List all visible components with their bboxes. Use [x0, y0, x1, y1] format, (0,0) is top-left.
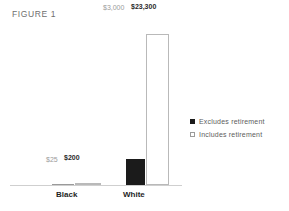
value-label-white-includes: $23,300 — [131, 3, 156, 10]
legend-item-includes-retirement: Includes retirement — [190, 131, 285, 138]
plot-area — [10, 16, 182, 186]
x-axis-line — [10, 185, 182, 186]
legend: Excludes retirement Includes retirement — [190, 118, 285, 144]
bar-black-excludes-retirement — [52, 184, 74, 185]
value-label-white-excludes: $3,000 — [103, 4, 124, 11]
bar-group-white — [118, 17, 170, 185]
category-label-black: Black — [56, 190, 77, 199]
bar-black-includes-retirement — [75, 183, 101, 185]
open-square-icon — [190, 132, 195, 137]
filled-square-icon — [190, 119, 195, 124]
figure-container: FIGURE 1 $25 $200 $3,000 $23,300 Black W… — [0, 0, 289, 211]
legend-label-excludes-retirement: Excludes retirement — [199, 118, 265, 125]
category-label-white: White — [123, 190, 145, 199]
value-label-black-includes: $200 — [64, 154, 80, 161]
value-label-black-excludes: $25 — [46, 156, 58, 163]
legend-item-excludes-retirement: Excludes retirement — [190, 118, 285, 125]
bar-white-includes-retirement — [146, 34, 169, 185]
bar-white-excludes-retirement — [126, 159, 145, 185]
legend-label-includes-retirement: Includes retirement — [199, 131, 262, 138]
